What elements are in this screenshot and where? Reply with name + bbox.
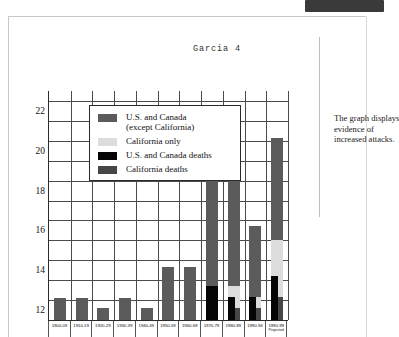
- bar-segment-us-canada-deaths: [206, 286, 218, 320]
- bar: [249, 226, 261, 320]
- x-axis-tick-sublabel: Projected: [269, 328, 284, 332]
- x-axis-tick-cell: 1920-29: [91, 321, 113, 337]
- running-head: Garcia 4: [193, 44, 241, 54]
- bar: [119, 298, 131, 320]
- bar-segment-california-deaths: [256, 308, 261, 320]
- bar-chart: 246810121416182022 U.S. and Canada (exce…: [31, 79, 316, 334]
- bar: [76, 298, 88, 320]
- x-axis-tick-cell: 1960-69: [178, 321, 200, 337]
- x-axis-tick-cell: 1900-09: [48, 321, 70, 337]
- document-page: Garcia 4 The graph displays evidence of …: [8, 16, 366, 337]
- x-axis-tick-cell: 1970-79: [200, 321, 222, 337]
- bar-segment-us-canada: [119, 298, 131, 320]
- x-axis-tick-label: 1940-49: [139, 323, 154, 328]
- legend-item: U.S. and Canada deaths: [90, 148, 240, 162]
- bar-group: [245, 91, 267, 320]
- bar: [206, 178, 218, 320]
- x-axis-tick-cell: 1990-94: [244, 321, 266, 337]
- bar-segment-us-canada-deaths: [228, 297, 235, 320]
- x-axis-tick-label: 1930-39: [117, 323, 132, 328]
- legend-swatch-us-canada-deaths: [98, 152, 117, 160]
- x-axis-tick-label: 1900-09: [52, 323, 67, 328]
- y-axis-tick-label: 18: [36, 186, 46, 196]
- gridline-vertical: [288, 91, 289, 320]
- legend-item: California only: [90, 134, 240, 148]
- bar-segment-us-canada: [97, 308, 109, 320]
- legend-label-california-only: California only: [126, 136, 181, 146]
- x-axis-tick-cell: 1940-49: [135, 321, 157, 337]
- y-axis-tick-label: 20: [36, 146, 46, 156]
- legend-label-us-canada: U.S. and Canada (except California): [126, 112, 194, 132]
- legend-item: California deaths: [90, 162, 240, 176]
- bar: [54, 298, 66, 320]
- x-axis-tick-label: 1910-19: [73, 323, 88, 328]
- bar: [162, 267, 174, 320]
- y-axis-tick-label: 22: [36, 106, 46, 116]
- bar: [271, 138, 283, 320]
- y-axis-tick-label: 12: [36, 305, 46, 315]
- bar-segment-california-deaths: [278, 297, 283, 320]
- y-axis-tick-label: 14: [36, 265, 46, 275]
- legend-item: U.S. and Canada (except California): [90, 110, 240, 134]
- x-axis-tick-cell: 1950-59: [157, 321, 179, 337]
- bar: [97, 308, 109, 320]
- x-axis-tick-label: 1920-29: [95, 323, 110, 328]
- bar: [184, 267, 196, 320]
- margin-divider: [319, 37, 320, 217]
- legend-label-line1: U.S. and Canada: [126, 112, 187, 122]
- app-toolbar-fragment: [305, 0, 384, 12]
- bar-group: [266, 91, 288, 320]
- bar-segment-us-canada: [162, 267, 174, 320]
- bar: [141, 308, 153, 320]
- legend-swatch-us-canada: [98, 114, 117, 122]
- x-axis-tick-cell: 1910-19: [70, 321, 92, 337]
- legend-label-line2: (except California): [126, 122, 194, 132]
- margin-annotation: The graph displays evidence of increased…: [334, 113, 399, 145]
- x-axis-tick-cell: 1990-99Projected: [265, 321, 287, 337]
- legend-swatch-california-only: [98, 138, 117, 146]
- x-axis-labels: 1900-091910-191920-291930-391940-491950-…: [48, 321, 288, 337]
- y-axis-tick-label: 16: [36, 225, 46, 235]
- bar-segment-us-canada-deaths: [271, 276, 278, 320]
- bar-segment-us-canada: [76, 298, 88, 320]
- legend-swatch-california-deaths: [98, 166, 117, 174]
- x-axis-tick-label: 1950-59: [160, 323, 175, 328]
- legend-label-california-deaths: California deaths: [126, 164, 188, 174]
- bar-segment-us-canada: [141, 308, 153, 320]
- bar-group: [49, 91, 71, 320]
- x-axis-tick-cell: 1930-39: [113, 321, 135, 337]
- bar-segment-us-canada: [54, 298, 66, 320]
- chart-legend: U.S. and Canada (except California) Cali…: [89, 105, 241, 181]
- x-axis-tick-label: 1960-69: [182, 323, 197, 328]
- chart-plot-area: 246810121416182022 U.S. and Canada (exce…: [48, 91, 288, 321]
- x-axis-tick-label: 1990-94: [247, 323, 262, 328]
- x-axis-tick-label: 1970-79: [204, 323, 219, 328]
- legend-label-us-canada-deaths: U.S. and Canada deaths: [126, 150, 212, 160]
- x-axis-tick-label: 1980-89: [225, 323, 240, 328]
- bar-segment-us-canada: [184, 267, 196, 320]
- bar-segment-us-canada-deaths: [249, 297, 256, 320]
- bar-segment-california-deaths: [235, 308, 240, 320]
- x-axis-tick-cell: 1980-89: [222, 321, 244, 337]
